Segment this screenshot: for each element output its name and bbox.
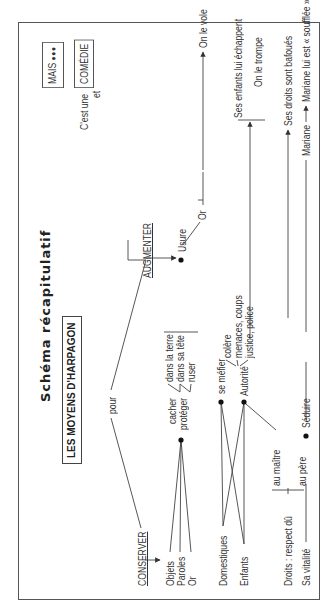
conclusion-et: et bbox=[90, 91, 102, 98]
target-mariane: Mariane bbox=[300, 125, 312, 156]
dot-seduire bbox=[303, 433, 308, 438]
label-usure: Usure bbox=[176, 229, 188, 252]
means-ruser: ruser bbox=[185, 362, 197, 382]
mais-dots: ●●● bbox=[49, 46, 58, 60]
label-augmenter: AUGMENTER bbox=[141, 223, 153, 278]
action-autorite: Autorité bbox=[238, 366, 250, 396]
dot-usure bbox=[178, 257, 183, 262]
diagram-title: Schéma récapitulatif bbox=[40, 230, 52, 402]
rights-maitre: au maître bbox=[270, 450, 282, 486]
outcome-vole: On le vole bbox=[197, 9, 209, 48]
outcome-droits: Ses droits sont bafoués bbox=[282, 36, 294, 126]
vitality-label: Sa vitalité bbox=[300, 549, 312, 586]
object-or: Or bbox=[186, 576, 198, 586]
action-se-mefier: se méfier bbox=[215, 359, 227, 394]
header-box: LES MOYENS D'HARPAGON bbox=[62, 316, 82, 464]
conclusion-prefix: C'est une bbox=[78, 94, 90, 130]
dot-se-mefier bbox=[218, 399, 223, 404]
connector-lines bbox=[18, 22, 320, 600]
authority-justice: justice, police bbox=[243, 306, 255, 358]
rights-pere: au père bbox=[296, 457, 308, 486]
action-seduire: Séduire bbox=[300, 398, 312, 428]
label-or-result: Or bbox=[196, 210, 208, 220]
target-enfants: Enfants bbox=[238, 557, 250, 586]
label-conserver: CONSERVER bbox=[136, 532, 148, 586]
dot-cacher bbox=[178, 437, 183, 442]
label-pour: pour bbox=[106, 397, 118, 414]
mais-label: MAIS bbox=[46, 63, 58, 84]
outcome-enfants: Ses enfants lui échappent bbox=[232, 19, 244, 118]
outcome-trompe: On le trompe bbox=[252, 37, 264, 87]
diagram-rotated-stage: Schéma récapitulatif LES MOYENS D'HARPAG… bbox=[18, 22, 320, 600]
box-mais: MAIS ●●● bbox=[42, 42, 64, 88]
target-domestiques: Domestiques bbox=[217, 536, 229, 586]
dot-autorite bbox=[241, 399, 246, 404]
rights-label: Droits : respect dû bbox=[282, 516, 294, 586]
box-comedie: COMÉDIE bbox=[74, 40, 94, 88]
action-proteger: protéger bbox=[177, 398, 189, 430]
outcome-mariane: Mariane lui est « soufflée ». bbox=[300, 0, 312, 102]
